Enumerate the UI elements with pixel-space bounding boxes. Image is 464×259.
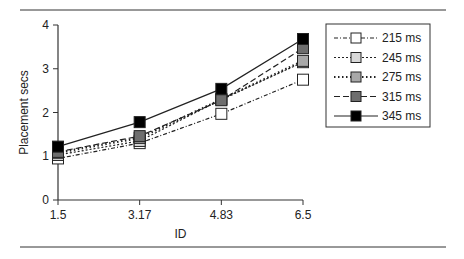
legend-label: 345 ms [382, 109, 421, 123]
legend-marker [351, 72, 361, 82]
series-marker [53, 141, 64, 152]
y-tick-label: 0 [42, 193, 49, 207]
series-line [58, 39, 303, 147]
legend-marker [351, 33, 361, 43]
x-axis-label: ID [175, 227, 187, 241]
series-marker [134, 131, 145, 142]
legend-marker [351, 53, 361, 63]
y-tick-label: 4 [42, 18, 49, 32]
legend-marker [351, 92, 361, 102]
series-line [58, 61, 303, 153]
y-tick-label: 1 [42, 149, 49, 163]
y-tick-label: 3 [42, 62, 49, 76]
legend-label: 245 ms [382, 51, 421, 65]
series-line [58, 48, 303, 152]
legend-label: 275 ms [382, 70, 421, 84]
legend-marker [351, 111, 361, 121]
series-marker [298, 55, 309, 66]
series-marker [134, 117, 145, 128]
legend-label: 315 ms [382, 90, 421, 104]
series-marker [216, 83, 227, 94]
x-tick-label: 6.5 [295, 208, 312, 222]
series-marker [298, 34, 309, 45]
chart-figure: 012341.53.174.836.5IDPlacement secs215 m… [0, 0, 464, 259]
series-marker [216, 108, 227, 119]
series-marker [298, 74, 309, 85]
legend-label: 215 ms [382, 31, 421, 45]
series-line [58, 62, 303, 155]
series-marker [216, 95, 227, 106]
x-tick-label: 4.83 [210, 208, 234, 222]
x-tick-label: 1.5 [50, 208, 67, 222]
line-chart: 012341.53.174.836.5IDPlacement secs215 m… [0, 0, 464, 259]
y-tick-label: 2 [42, 106, 49, 120]
y-axis-label: Placement secs [17, 70, 31, 155]
x-tick-label: 3.17 [128, 208, 152, 222]
